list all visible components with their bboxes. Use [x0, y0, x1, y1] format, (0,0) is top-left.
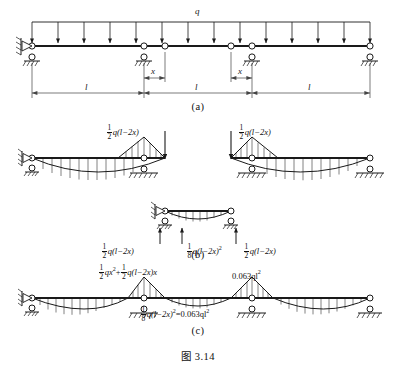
hinge-left — [162, 43, 168, 49]
label-c-peak-left: 1 2 qx2+ 1 2 q(l−2x)x — [98, 264, 157, 281]
support-b-left-pin — [18, 149, 39, 176]
panel-c-label: (c) — [0, 325, 396, 336]
hinge-b-mid-right — [228, 208, 234, 214]
label-b-left-moment: 1 2 q(l−2x) — [106, 124, 139, 141]
frac-c-t2: 1 2 — [121, 264, 127, 281]
dimension-spans — [32, 63, 370, 98]
panel-b-left-beam — [18, 131, 165, 180]
span-label-1: l — [85, 82, 88, 92]
support-b-mid-wall — [151, 202, 165, 219]
panel-b-label: (b) — [0, 249, 396, 260]
support-left-pin — [16, 37, 40, 66]
frac-b-left: 1 2 — [107, 124, 113, 141]
span-label-2: l — [195, 82, 198, 92]
load-label-q: q — [195, 6, 200, 16]
support-c-left-pin — [18, 289, 39, 316]
offset-label-x-right: x — [238, 66, 242, 76]
figure-caption: 图 3.14 — [0, 348, 396, 363]
frac-c-sag: 1 8 — [141, 306, 147, 323]
distributed-load-arrows — [32, 22, 370, 43]
panel-a-label: (a) — [0, 101, 396, 112]
panel-b — [18, 131, 384, 244]
span-label-3: l — [308, 82, 311, 92]
support-b-mid-roller-right — [223, 218, 238, 229]
label-c-sag: 1 8 q(l−2x)2=0.063ql2 — [140, 306, 209, 323]
hinge-right — [228, 43, 234, 49]
offset-label-x-left: x — [151, 66, 155, 76]
frac-b-right: 1 2 — [239, 124, 245, 141]
label-b-right-moment: 1 2 q(l−2x) — [238, 124, 271, 141]
panel-b-middle-beam — [151, 202, 238, 244]
frac-c-t1: 1 2 — [99, 264, 105, 281]
label-c-peak-right: 0.063ql2 — [232, 269, 261, 280]
support-b-mid-roller-left — [157, 218, 172, 229]
